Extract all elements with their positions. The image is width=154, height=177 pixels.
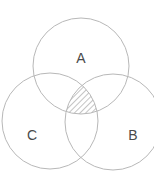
set-a-label: A (76, 50, 86, 66)
set-b-label: B (128, 127, 137, 143)
intersection-abc-region (0, 0, 154, 177)
venn-diagram: A B C (0, 0, 154, 177)
set-c-circle (2, 73, 98, 169)
set-c-label: C (27, 127, 37, 143)
set-b-circle (65, 74, 154, 170)
